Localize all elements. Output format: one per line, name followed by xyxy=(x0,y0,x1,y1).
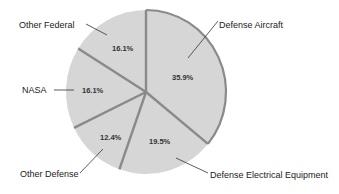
pie-chart: Other Federal Defense Aircraft NASA Othe… xyxy=(0,0,339,194)
leader-other-defense xyxy=(80,149,103,173)
label-defense-electrical: Defense Electrical Equipment xyxy=(210,170,329,180)
label-defense-aircraft: Defense Aircraft xyxy=(219,20,284,30)
label-other-defense: Other Defense xyxy=(20,169,79,179)
pct-defense-aircraft: 35.9% xyxy=(172,73,194,82)
pct-defense-electrical: 19.5% xyxy=(149,137,171,146)
label-other-federal: Other Federal xyxy=(19,20,75,30)
pct-other-federal: 16.1% xyxy=(112,44,134,53)
pct-other-defense: 12.4% xyxy=(100,133,122,142)
label-nasa: NASA xyxy=(22,85,47,95)
pct-nasa: 16.1% xyxy=(82,86,104,95)
